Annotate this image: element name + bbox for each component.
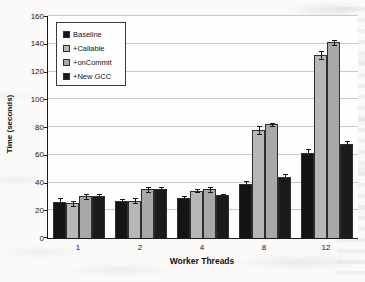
error-bar xyxy=(60,198,61,206)
bar--new-gcc-2 xyxy=(154,189,167,238)
x-tick-label: 2 xyxy=(109,243,171,252)
bar-baseline-4 xyxy=(177,198,190,238)
error-bar-cap xyxy=(159,187,164,188)
error-bar-cap xyxy=(133,203,138,204)
error-bar-cap xyxy=(345,141,350,142)
error-bar-cap xyxy=(146,187,151,188)
error-bar xyxy=(321,51,322,59)
y-tick-label: 80 xyxy=(8,123,44,132)
error-bar-cap xyxy=(283,174,288,175)
plot-area: Baseline+Callable+onCommit+New GCC xyxy=(47,16,358,239)
legend-label: +Callable xyxy=(73,44,104,53)
y-tick-label: 120 xyxy=(8,67,44,76)
error-bar-cap xyxy=(71,206,76,207)
error-bar-cap xyxy=(332,45,337,46)
scanned-chart-figure: Time (seconds) Baseline+Callable+onCommi… xyxy=(0,0,365,282)
bar--callable-1 xyxy=(66,203,79,238)
y-tick-mark xyxy=(44,99,47,100)
error-bar-cap xyxy=(71,201,76,202)
error-bar-cap xyxy=(84,194,89,195)
error-bar-cap xyxy=(319,59,324,60)
legend-swatch-icon xyxy=(63,31,70,38)
gridline xyxy=(48,15,358,16)
error-bar-cap xyxy=(159,192,164,193)
error-bar-cap xyxy=(120,199,125,200)
error-bar-cap xyxy=(182,199,187,200)
bar--new-gcc-1 xyxy=(92,196,105,238)
error-bar-cap xyxy=(84,199,89,200)
y-tick-mark xyxy=(44,210,47,211)
gridline xyxy=(48,126,358,127)
bar-baseline-8 xyxy=(239,184,252,238)
legend-item: +Callable xyxy=(63,41,125,55)
error-bar-cap xyxy=(58,206,63,207)
x-tick-label: 12 xyxy=(295,243,357,252)
bar--new-gcc-12 xyxy=(340,144,353,238)
bar-baseline-12 xyxy=(301,153,314,238)
error-bar-cap xyxy=(221,194,226,195)
error-bar-cap xyxy=(306,149,311,150)
error-bar-cap xyxy=(146,192,151,193)
bar--oncommit-2 xyxy=(141,189,154,238)
error-bar-cap xyxy=(332,40,337,41)
y-tick-label: 140 xyxy=(8,39,44,48)
error-bar-cap xyxy=(257,126,262,127)
error-bar-cap xyxy=(208,192,213,193)
y-tick-mark xyxy=(44,237,47,238)
error-bar-cap xyxy=(270,123,275,124)
legend-label: +New GCC xyxy=(73,72,111,81)
y-tick-mark xyxy=(44,155,47,156)
error-bar-cap xyxy=(133,198,138,199)
error-bar-cap xyxy=(283,180,288,181)
legend-swatch-icon xyxy=(63,45,70,52)
error-bar-cap xyxy=(97,199,102,200)
error-bar-cap xyxy=(195,192,200,193)
y-tick-label: 160 xyxy=(8,12,44,21)
bar--oncommit-4 xyxy=(203,189,216,238)
y-tick-label: 40 xyxy=(8,178,44,187)
gridline xyxy=(48,98,358,99)
error-bar-cap xyxy=(195,189,200,190)
y-tick-mark xyxy=(44,72,47,73)
error-bar-cap xyxy=(97,194,102,195)
legend-label: +onCommit xyxy=(73,58,112,67)
y-tick-label: 20 xyxy=(8,206,44,215)
error-bar-cap xyxy=(306,158,311,159)
bar--oncommit-1 xyxy=(79,196,92,238)
error-bar-cap xyxy=(345,146,350,147)
bar-baseline-1 xyxy=(53,202,66,238)
bar--new-gcc-8 xyxy=(278,177,291,238)
legend-item: +New GCC xyxy=(63,69,125,83)
x-axis-title: Worker Threads xyxy=(47,256,357,266)
legend-item: Baseline xyxy=(63,27,125,41)
bar--callable-2 xyxy=(128,201,141,238)
y-tick-label: 100 xyxy=(8,95,44,104)
bar-baseline-2 xyxy=(115,201,128,238)
y-tick-mark xyxy=(44,16,47,17)
bar--oncommit-8 xyxy=(265,124,278,238)
bar--callable-8 xyxy=(252,130,265,238)
legend-swatch-icon xyxy=(63,59,70,66)
legend-label: Baseline xyxy=(73,30,102,39)
error-bar-cap xyxy=(319,51,324,52)
error-bar-cap xyxy=(120,202,125,203)
error-bar-cap xyxy=(182,196,187,197)
error-bar-cap xyxy=(270,126,275,127)
bar--callable-12 xyxy=(314,55,327,238)
y-tick-label: 60 xyxy=(8,150,44,159)
x-tick-label: 8 xyxy=(233,243,295,252)
x-tick-label: 1 xyxy=(47,243,109,252)
y-tick-mark xyxy=(44,127,47,128)
error-bar-cap xyxy=(244,181,249,182)
error-bar xyxy=(259,126,260,134)
error-bar-cap xyxy=(257,134,262,135)
y-tick-mark xyxy=(44,44,47,45)
error-bar-cap xyxy=(221,196,226,197)
y-tick-mark xyxy=(44,183,47,184)
error-bar-cap xyxy=(244,187,249,188)
error-bar-cap xyxy=(58,198,63,199)
x-tick-label: 4 xyxy=(171,243,233,252)
bar--oncommit-12 xyxy=(327,42,340,238)
error-bar-cap xyxy=(208,187,213,188)
legend-swatch-icon xyxy=(63,73,70,80)
